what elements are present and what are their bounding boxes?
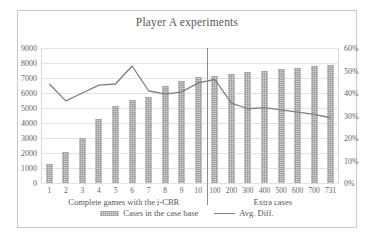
plot-area: 0100020003000400050006000700080009000 0%… (41, 48, 339, 183)
x-axis-tick-label: 1 (47, 186, 51, 195)
legend-label-bar: Cases in the case base (123, 208, 198, 218)
chart-legend: Cases in the case base Avg. Diff. (18, 208, 356, 218)
right-axis-tick-label: 20% (344, 134, 359, 143)
left-axis-tick-label: 3000 (21, 134, 37, 143)
x-axis-tick-label: 100 (209, 186, 220, 195)
right-axis-tick-label: 60% (344, 44, 359, 53)
group-label: Complete games with the i-CBR (68, 197, 179, 207)
line-swatch-icon (214, 213, 235, 214)
x-axis-tick-label: 731 (325, 186, 336, 195)
left-axis-tick-label: 1000 (21, 164, 37, 173)
x-axis-tick-label: 7 (147, 186, 151, 195)
x-axis-tick-label: 6 (130, 186, 134, 195)
right-axis-tick-label: 0% (344, 179, 355, 188)
left-axis-tick-label: 4000 (21, 119, 37, 128)
legend-label-line: Avg. Diff. (239, 208, 273, 218)
x-axis-tick-label: 300 (242, 186, 253, 195)
left-axis-tick-label: 2000 (21, 149, 37, 158)
x-axis-tick-label: 500 (275, 186, 286, 195)
left-axis-tick-label: 5000 (21, 104, 37, 113)
group-label: Extra cases (254, 197, 292, 207)
x-axis-tick-label: 2 (64, 186, 68, 195)
legend-item-bar: Cases in the case base (100, 208, 198, 218)
x-axis-tick-label: 3 (81, 186, 85, 195)
x-axis-tick-label: 5 (114, 186, 118, 195)
left-axis-tick-label: 8000 (21, 59, 37, 68)
left-axis-tick-label: 9000 (21, 44, 37, 53)
right-axis-tick-label: 50% (344, 66, 359, 75)
group-divider-line (207, 48, 208, 205)
left-axis-tick-label: 7000 (21, 74, 37, 83)
x-axis-tick-label: 400 (259, 186, 270, 195)
x-axis-tick-label: 600 (292, 186, 303, 195)
left-axis-tick-label: 6000 (21, 89, 37, 98)
legend-item-line: Avg. Diff. (214, 208, 273, 218)
x-axis-tick-label: 200 (226, 186, 237, 195)
x-axis-tick-label: 8 (163, 186, 167, 195)
right-axis-tick-label: 30% (344, 111, 359, 120)
right-axis-tick-label: 10% (344, 156, 359, 165)
x-axis-tick-label: 4 (97, 186, 101, 195)
x-axis-tick-label: 10 (195, 186, 203, 195)
left-axis-tick-label: 0 (33, 179, 37, 188)
line-series (41, 48, 339, 183)
x-axis-tick-label: 700 (309, 186, 320, 195)
right-axis-tick-label: 40% (344, 89, 359, 98)
chart-container: Player A experiments 0100020003000400050… (17, 10, 357, 228)
x-axis-tick-label: 9 (180, 186, 184, 195)
bar-swatch-icon (100, 211, 119, 216)
chart-title: Player A experiments (18, 16, 356, 28)
gridline (41, 183, 339, 184)
